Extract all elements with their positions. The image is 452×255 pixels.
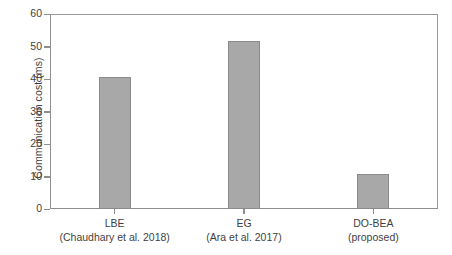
y-tick-label: 60 <box>12 7 42 19</box>
x-tick-label-name: DO-BEA <box>298 216 448 230</box>
y-tick-label: 20 <box>12 137 42 149</box>
plot-area <box>50 14 438 209</box>
x-tick-label: DO-BEA(proposed) <box>298 216 448 244</box>
y-tick-label: 10 <box>12 170 42 182</box>
x-tick-mark <box>114 209 116 214</box>
y-tick-mark <box>44 14 50 16</box>
x-tick-label-citation: (Ara et al. 2017) <box>169 230 319 244</box>
x-tick-label-citation: (proposed) <box>298 230 448 244</box>
x-tick-label-name: EG <box>169 216 319 230</box>
y-tick-label: 30 <box>12 105 42 117</box>
y-tick-mark <box>44 144 50 146</box>
y-tick-mark <box>44 209 50 211</box>
x-tick-label-name: LBE <box>40 216 190 230</box>
x-tick-label-citation: (Chaudhary et al. 2018) <box>40 230 190 244</box>
x-tick-mark <box>373 209 375 214</box>
y-tick-label: 40 <box>12 72 42 84</box>
y-tick-mark <box>44 111 50 113</box>
y-tick-label: 0 <box>12 202 42 214</box>
y-tick-mark <box>44 46 50 48</box>
bar-chart: Communication cost (ms) 0102030405060 LB… <box>0 0 452 255</box>
y-tick-mark <box>44 79 50 81</box>
x-tick-mark <box>243 209 245 214</box>
y-tick-label: 50 <box>12 40 42 52</box>
y-tick-mark <box>44 176 50 178</box>
x-tick-label: EG(Ara et al. 2017) <box>169 216 319 244</box>
x-tick-label: LBE(Chaudhary et al. 2018) <box>40 216 190 244</box>
